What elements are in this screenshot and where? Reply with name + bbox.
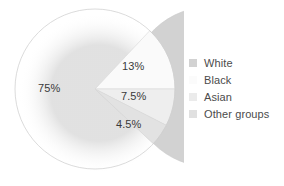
pie-chart-svg (0, 0, 184, 186)
legend-label-black: Black (204, 74, 231, 86)
legend-item-asian[interactable]: Asian (189, 88, 281, 105)
pie-chart-figure: 75% 13% 7.5% 4.5% White Black Asian Othe… (0, 0, 284, 186)
legend-swatch-other-groups (189, 110, 197, 118)
slice-label-asian: 7.5% (121, 91, 146, 102)
legend-label-white: White (204, 57, 233, 69)
legend-swatch-asian (189, 93, 197, 101)
legend-label-asian: Asian (204, 91, 232, 103)
legend-swatch-white (189, 59, 197, 67)
pie-chart-plot-area: 75% 13% 7.5% 4.5% (0, 0, 184, 186)
chart-legend: White Black Asian Other groups (189, 54, 281, 122)
legend-label-other-groups: Other groups (204, 108, 269, 120)
slice-label-black: 13% (122, 61, 144, 72)
legend-swatch-black (189, 76, 197, 84)
legend-item-other-groups[interactable]: Other groups (189, 105, 281, 122)
slice-label-white: 75% (38, 83, 60, 94)
legend-item-black[interactable]: Black (189, 71, 281, 88)
slice-label-other-groups: 4.5% (116, 119, 141, 130)
legend-item-white[interactable]: White (189, 54, 281, 71)
